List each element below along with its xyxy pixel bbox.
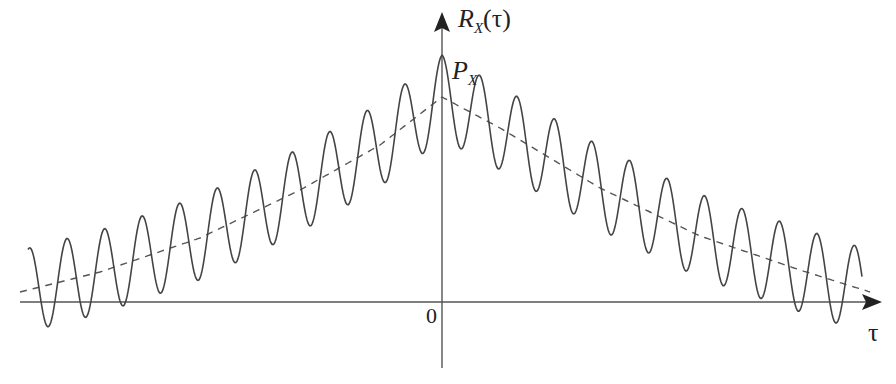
- x-axis-label: τ: [868, 318, 878, 348]
- y-label-arg: (τ): [483, 4, 511, 33]
- peak-label-sub: X: [468, 72, 477, 88]
- y-label-main: R: [458, 4, 474, 33]
- envelope-dashed-curve: [20, 97, 870, 292]
- peak-label-main: P: [452, 56, 468, 85]
- autocorrelation-curve: [28, 55, 862, 327]
- origin-label: 0: [426, 303, 437, 329]
- y-axis-label: RX(τ): [458, 4, 511, 37]
- autocorrelation-plot: [0, 0, 896, 384]
- y-label-sub: X: [474, 20, 483, 36]
- peak-label: PX: [452, 56, 477, 89]
